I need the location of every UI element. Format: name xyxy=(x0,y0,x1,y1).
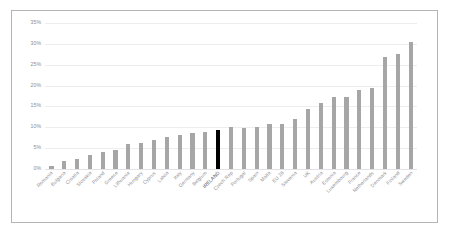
bar xyxy=(229,127,233,169)
bar xyxy=(293,119,297,169)
bar-slot xyxy=(237,23,250,169)
bar-slot xyxy=(83,23,96,169)
bar xyxy=(203,132,207,169)
x-label-slot: Slovenia xyxy=(289,170,302,214)
bar xyxy=(332,97,336,169)
bar xyxy=(357,90,361,169)
bar-slot xyxy=(289,23,302,169)
x-axis-tick-label: Malta xyxy=(261,171,273,183)
y-axis-tick-label: 30% xyxy=(31,41,41,46)
bar xyxy=(139,143,143,169)
bar xyxy=(88,155,92,169)
bar xyxy=(383,57,387,169)
bar-slot xyxy=(250,23,263,169)
bar xyxy=(62,161,66,169)
y-axis-tick-label: 15% xyxy=(31,104,41,109)
bar xyxy=(113,150,117,169)
plot-area: 0%5%10%15%20%25%30%35% xyxy=(45,23,417,169)
bar xyxy=(242,128,246,169)
bar-highlighted xyxy=(216,130,221,169)
bar-slot xyxy=(148,23,161,169)
y-axis-tick-label: 20% xyxy=(31,83,41,88)
bar-slot xyxy=(366,23,379,169)
bar-slot xyxy=(391,23,404,169)
chart-title-clipped xyxy=(0,0,450,7)
bar-slot xyxy=(160,23,173,169)
x-axis-labels: RomaniaBulgariaCroatiaSlovakiaPolandGree… xyxy=(45,170,417,214)
bar-slot xyxy=(276,23,289,169)
y-axis-tick-label: 0% xyxy=(34,166,42,171)
bar xyxy=(190,133,194,169)
bar-slot xyxy=(404,23,417,169)
bar-slot xyxy=(327,23,340,169)
bar-slot xyxy=(96,23,109,169)
bar-slot xyxy=(225,23,238,169)
bar xyxy=(319,103,323,169)
bar-slot xyxy=(302,23,315,169)
bar xyxy=(49,166,53,169)
y-axis-tick-label: 35% xyxy=(31,20,41,25)
bar xyxy=(101,152,105,169)
bar-slot xyxy=(58,23,71,169)
chart-figure: 0%5%10%15%20%25%30%35% RomaniaBulgariaCr… xyxy=(0,0,450,234)
bar-slot xyxy=(122,23,135,169)
bar xyxy=(152,140,156,169)
bar xyxy=(255,127,259,169)
bar-slot xyxy=(340,23,353,169)
bar-slot xyxy=(353,23,366,169)
y-axis-tick-label: 25% xyxy=(31,62,41,67)
bar xyxy=(396,54,400,169)
bar-slot xyxy=(314,23,327,169)
bar xyxy=(344,97,348,169)
bar xyxy=(165,137,169,169)
bar-slot xyxy=(45,23,58,169)
bar xyxy=(267,124,271,169)
x-label-slot: Sweden xyxy=(404,170,417,214)
bar-slot xyxy=(186,23,199,169)
bar-slot xyxy=(109,23,122,169)
bar-slot xyxy=(71,23,84,169)
bar-slot xyxy=(199,23,212,169)
y-axis-tick-label: 10% xyxy=(31,125,41,130)
bar xyxy=(75,159,79,169)
bar-slot xyxy=(212,23,225,169)
bars-group xyxy=(45,23,417,169)
x-axis-tick-label: UK xyxy=(303,171,311,179)
x-axis-tick-label: Spain xyxy=(247,171,260,184)
bar-slot xyxy=(135,23,148,169)
bar xyxy=(370,88,374,169)
bar xyxy=(126,144,130,169)
bar xyxy=(280,124,284,169)
bar-slot xyxy=(173,23,186,169)
bar-slot xyxy=(379,23,392,169)
bar xyxy=(306,109,310,169)
bar xyxy=(178,135,182,169)
bar xyxy=(409,42,413,169)
bar-slot xyxy=(263,23,276,169)
y-axis-tick-label: 5% xyxy=(34,146,42,151)
